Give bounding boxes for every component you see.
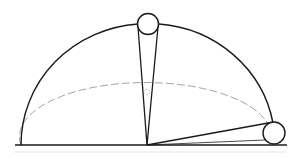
cone-right-edge: [147, 27, 158, 145]
hemisphere-arc-right: [159, 24, 273, 123]
dashed-small-circle: [144, 90, 150, 95]
hemisphere-diagram: [0, 0, 298, 157]
cone-left-edge: [138, 27, 147, 145]
right-ball: [263, 122, 285, 144]
hemisphere-arc: [21, 24, 138, 145]
tilted-cone-lower-edge: [147, 140, 265, 145]
top-ball: [138, 14, 159, 35]
tilted-cone-upper-edge: [147, 123, 271, 146]
